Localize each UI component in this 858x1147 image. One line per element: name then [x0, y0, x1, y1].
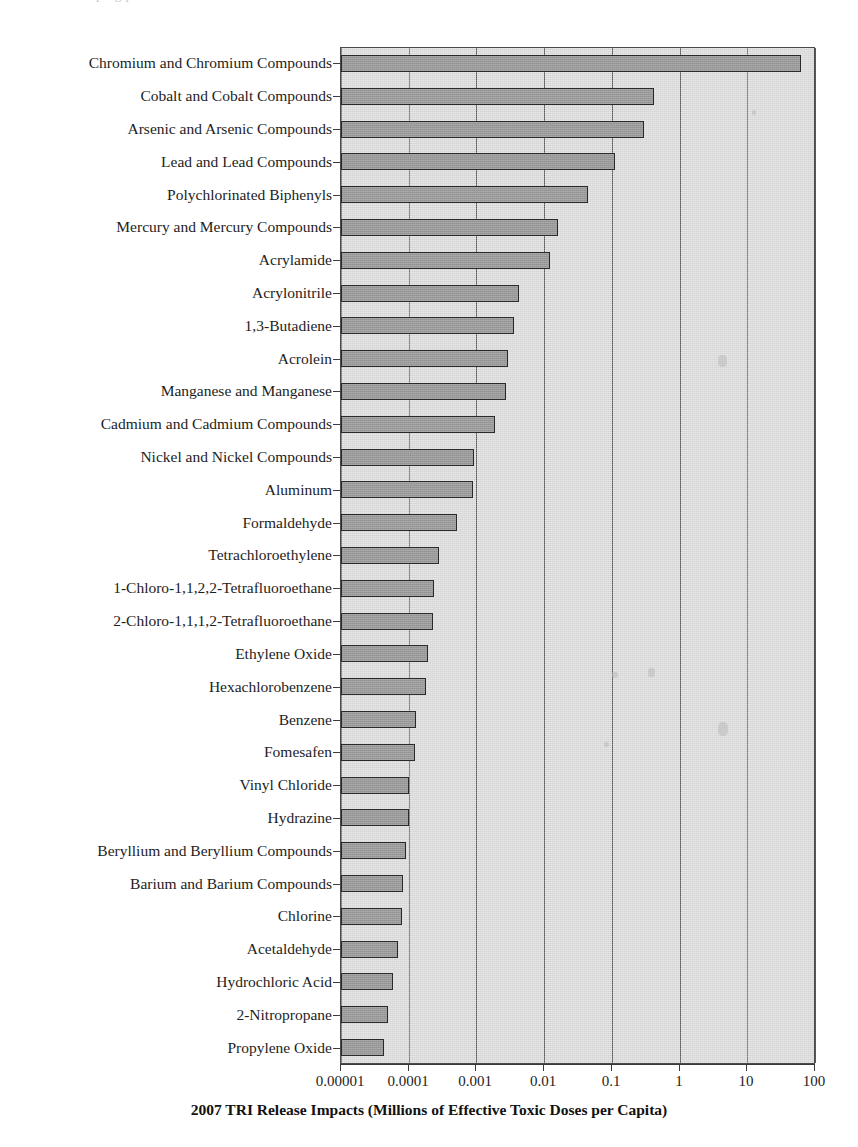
bar-row: Cadmium and Cadmium Compounds — [0, 408, 858, 441]
y-axis-tick — [333, 654, 340, 655]
bar-row: Tetrachloroethylene — [0, 539, 858, 572]
x-axis-tick-label: 0.00001 — [316, 1073, 365, 1090]
x-axis-tick — [543, 1064, 544, 1071]
category-label: Hydrazine — [2, 810, 332, 826]
bar-row: Barium and Barium Compounds — [0, 867, 858, 900]
bar-row: Acrylonitrile — [0, 277, 858, 310]
bar-row: Mercury and Mercury Compounds — [0, 211, 858, 244]
bar-row: 2-Nitropropane — [0, 998, 858, 1031]
bar-rows: Chromium and Chromium CompoundsCobalt an… — [0, 47, 858, 1064]
x-axis-tick — [746, 1064, 747, 1071]
bar — [341, 449, 474, 466]
x-axis-tick — [408, 1064, 409, 1071]
y-axis-tick — [333, 326, 340, 327]
y-axis-tick — [333, 785, 340, 786]
category-label: Tetrachloroethylene — [2, 547, 332, 563]
bar — [341, 219, 558, 236]
x-axis-tick — [611, 1064, 612, 1071]
category-label: Beryllium and Beryllium Compounds — [2, 843, 332, 859]
x-axis-label: 2007 TRI Release Impacts (Millions of Ef… — [0, 1101, 858, 1119]
y-axis-tick — [333, 720, 340, 721]
y-axis-tick — [333, 490, 340, 491]
category-label: Polychlorinated Biphenyls — [2, 187, 332, 203]
bar — [341, 514, 457, 531]
cutoff-caption-above: ping p — [0, 0, 858, 14]
x-axis-tick — [814, 1064, 815, 1071]
bar-row: Propylene Oxide — [0, 1031, 858, 1064]
bar-row: Lead and Lead Compounds — [0, 145, 858, 178]
category-label: Formaldehyde — [2, 515, 332, 531]
bar-row: Benzene — [0, 703, 858, 736]
x-axis-tick-label: 10 — [739, 1073, 754, 1090]
y-axis-tick — [333, 621, 340, 622]
x-axis-line — [340, 1064, 815, 1065]
bar-row: 1-Chloro-1,1,2,2-Tetrafluoroethane — [0, 572, 858, 605]
bar-row: Beryllium and Beryllium Compounds — [0, 834, 858, 867]
category-label: Chromium and Chromium Compounds — [2, 55, 332, 71]
category-label: Cadmium and Cadmium Compounds — [2, 416, 332, 432]
y-axis-tick — [333, 949, 340, 950]
bar-row: Vinyl Chloride — [0, 769, 858, 802]
x-axis-tick-label: 1 — [675, 1073, 683, 1090]
category-label: Manganese and Manganese — [2, 383, 332, 399]
bar — [341, 121, 644, 138]
bar-row: Chlorine — [0, 900, 858, 933]
y-axis-tick — [333, 1015, 340, 1016]
bar — [341, 317, 514, 334]
category-label: Aluminum — [2, 482, 332, 498]
category-label: Chlorine — [2, 908, 332, 924]
bar-row: Formaldehyde — [0, 506, 858, 539]
x-axis-tick-label: 0.01 — [530, 1073, 556, 1090]
bar-row: 2-Chloro-1,1,1,2-Tetrafluoroethane — [0, 605, 858, 638]
scan-artifact — [718, 355, 727, 367]
bar — [341, 481, 473, 498]
category-label: Acrylonitrile — [2, 285, 332, 301]
category-label: 1,3-Butadiene — [2, 318, 332, 334]
x-axis-tick-label: 0.1 — [602, 1073, 621, 1090]
y-axis-tick — [333, 359, 340, 360]
bar — [341, 55, 801, 72]
y-axis-tick — [333, 752, 340, 753]
y-axis-tick — [333, 260, 340, 261]
y-axis-tick — [333, 851, 340, 852]
y-axis-tick — [333, 63, 340, 64]
bar — [341, 744, 415, 761]
x-axis-tick-label: 0.0001 — [387, 1073, 428, 1090]
bar-row: Arsenic and Arsenic Compounds — [0, 113, 858, 146]
bar — [341, 153, 615, 170]
bar-row: 1,3-Butadiene — [0, 309, 858, 342]
category-label: Acrolein — [2, 351, 332, 367]
bar — [341, 1039, 384, 1056]
bar — [341, 580, 434, 597]
bar-row: Acetaldehyde — [0, 933, 858, 966]
scan-artifact — [718, 722, 728, 736]
bar — [341, 416, 495, 433]
bar-row: Aluminum — [0, 473, 858, 506]
x-axis-tick — [679, 1064, 680, 1071]
y-axis-tick — [333, 129, 340, 130]
category-label: Propylene Oxide — [2, 1040, 332, 1056]
category-label: Mercury and Mercury Compounds — [2, 219, 332, 235]
scan-artifact — [604, 742, 609, 747]
bar — [341, 973, 393, 990]
bar — [341, 88, 654, 105]
bar — [341, 777, 409, 794]
bar-row: Cobalt and Cobalt Compounds — [0, 80, 858, 113]
bar-row: Hexachlorobenzene — [0, 670, 858, 703]
category-label: Benzene — [2, 712, 332, 728]
category-label: Acrylamide — [2, 252, 332, 268]
x-axis-tick — [340, 1064, 341, 1071]
bar-row: Nickel and Nickel Compounds — [0, 441, 858, 474]
category-label: Cobalt and Cobalt Compounds — [2, 88, 332, 104]
category-label: 2-Chloro-1,1,1,2-Tetrafluoroethane — [2, 613, 332, 629]
bar — [341, 875, 403, 892]
y-axis-tick — [333, 982, 340, 983]
y-axis-tick — [333, 916, 340, 917]
bar-row: Chromium and Chromium Compounds — [0, 47, 858, 80]
bar-row: Acrolein — [0, 342, 858, 375]
bar — [341, 941, 398, 958]
x-axis-tick-label: 0.001 — [458, 1073, 492, 1090]
bar — [341, 842, 406, 859]
category-label: Ethylene Oxide — [2, 646, 332, 662]
bar — [341, 613, 433, 630]
